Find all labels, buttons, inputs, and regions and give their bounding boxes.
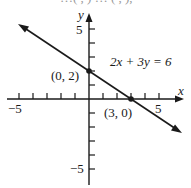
- y-tick-label-neg5: −5: [70, 161, 84, 176]
- y-axis-arrow-icon: [86, 13, 93, 22]
- clipped-text-fragment: …( , ) … ( , ),: [60, 0, 133, 5]
- x-intercept-label: (3, 0): [104, 105, 132, 120]
- y-intercept-label: (0, 2): [51, 68, 79, 83]
- x-tick-label-5: 5: [155, 101, 162, 116]
- y-tick-label-5: 5: [76, 22, 83, 37]
- x-axis-label: x: [177, 83, 184, 98]
- graph: …( , ) … ( , ),: [0, 0, 191, 188]
- equation-label: 2x + 3y = 6: [110, 54, 172, 69]
- point-y-intercept: [86, 68, 92, 74]
- line-arrow-upper-left-icon: [18, 24, 29, 33]
- point-x-intercept: [128, 96, 134, 102]
- line-series-2x-3y-6: [18, 24, 182, 133]
- x-tick-label-neg5: −5: [8, 101, 22, 116]
- y-axis-label: y: [76, 7, 84, 22]
- line-arrow-lower-right-icon: [171, 125, 182, 134]
